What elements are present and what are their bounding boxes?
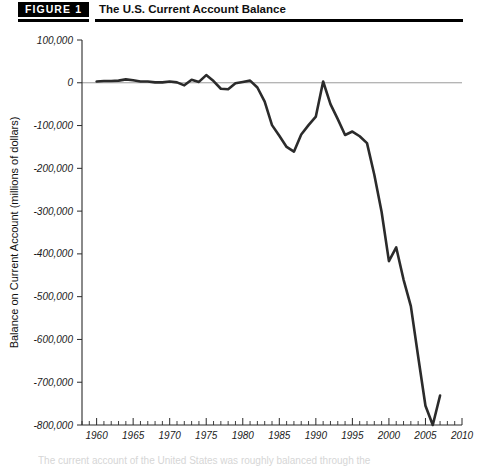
svg-text:-800,000: -800,000 (34, 420, 74, 431)
svg-text:-200,000: -200,000 (34, 163, 74, 174)
figure-title: The U.S. Current Account Balance (99, 1, 286, 17)
svg-text:-300,000: -300,000 (34, 206, 74, 217)
y-axis-title: Balance on Current Account (millions of … (8, 117, 20, 349)
svg-text:-700,000: -700,000 (34, 377, 74, 388)
svg-text:1965: 1965 (122, 430, 145, 441)
svg-text:2000: 2000 (377, 430, 401, 441)
figure-number-badge: FIGURE 1 (18, 2, 89, 17)
svg-text:2005: 2005 (413, 430, 437, 441)
series-path (97, 75, 440, 425)
caption-text-fragment: The current account of the United States… (38, 455, 438, 467)
svg-text:1985: 1985 (268, 430, 291, 441)
x-axis-ticks (82, 418, 462, 425)
svg-text:1960: 1960 (85, 430, 108, 441)
svg-text:-400,000: -400,000 (34, 248, 74, 259)
svg-text:2010: 2010 (450, 430, 474, 441)
header-rule-left (18, 19, 89, 22)
y-axis-ticks (77, 40, 82, 425)
header-rule-right (95, 19, 463, 22)
axis-lines (82, 40, 462, 425)
svg-text:1990: 1990 (305, 430, 328, 441)
figure-header: FIGURE 1 The U.S. Current Account Balanc… (0, 0, 477, 26)
svg-text:1975: 1975 (195, 430, 218, 441)
y-axis-tick-labels: 100,0000-100,000-200,000-300,000-400,000… (34, 35, 74, 431)
svg-text:1995: 1995 (341, 430, 364, 441)
svg-text:-100,000: -100,000 (34, 120, 74, 131)
x-axis-tick-labels: 1960196519701975198019851990199520002005… (85, 430, 473, 441)
svg-text:0: 0 (67, 77, 73, 88)
svg-text:-500,000: -500,000 (34, 291, 74, 302)
svg-text:-600,000: -600,000 (34, 334, 74, 345)
svg-text:1970: 1970 (159, 430, 182, 441)
current-account-balance-line-chart: 100,0000-100,000-200,000-300,000-400,000… (0, 26, 477, 446)
chart-container: 100,0000-100,000-200,000-300,000-400,000… (0, 26, 477, 446)
svg-text:1980: 1980 (232, 430, 255, 441)
svg-text:100,000: 100,000 (37, 35, 74, 46)
data-series-line (97, 75, 440, 425)
